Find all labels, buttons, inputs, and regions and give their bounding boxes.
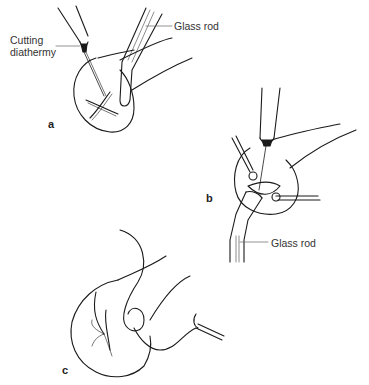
label-glass-rod-b: Glass rod bbox=[271, 237, 316, 249]
label-cutting-diathermy: Cutting diathermy bbox=[10, 34, 56, 58]
panel-label-c: c bbox=[62, 364, 68, 376]
panel-label-a: a bbox=[48, 118, 54, 130]
panel-c-drawing bbox=[71, 230, 224, 377]
panel-label-b: b bbox=[206, 192, 213, 204]
label-cutting-diathermy-line2: diathermy bbox=[10, 46, 56, 58]
label-glass-rod-a: Glass rod bbox=[174, 20, 219, 32]
label-cutting-diathermy-line1: Cutting bbox=[10, 34, 56, 46]
panel-a-drawing bbox=[56, 6, 192, 132]
panel-b-drawing bbox=[230, 88, 356, 262]
